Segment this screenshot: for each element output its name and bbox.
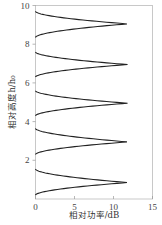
x-tick-label: 15 — [148, 202, 158, 212]
y-tick-label: 6 — [25, 78, 30, 88]
x-axis-title: 相对功率/dB — [69, 210, 120, 220]
lobe-1-curve — [36, 169, 127, 195]
y-axis-ticks: 246810 — [21, 1, 36, 166]
lobe-3-curve — [36, 91, 128, 116]
y-tick-label: 10 — [21, 1, 31, 11]
y-tick-label: 8 — [25, 39, 30, 49]
lobe-curves — [36, 11, 128, 195]
lobe-4-curve — [36, 52, 128, 77]
y-tick-label: 2 — [25, 155, 30, 165]
plot-frame — [36, 6, 153, 200]
y-axis-title: 相对高度h/h₀ — [7, 75, 17, 129]
x-tick-label: 0 — [33, 202, 38, 212]
chart: 051015 246810 相对功率/dB 相对高度h/h₀ — [0, 0, 162, 225]
y-tick-label: 4 — [25, 117, 30, 127]
lobe-5-curve — [36, 11, 127, 37]
lobe-2-curve — [36, 128, 127, 154]
